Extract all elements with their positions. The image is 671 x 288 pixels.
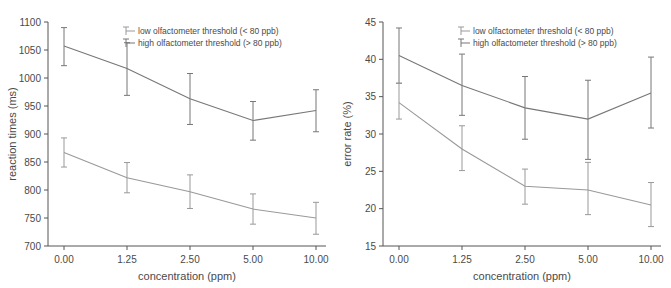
y-tick-label: 30	[365, 129, 377, 140]
y-tick-label: 950	[24, 101, 41, 112]
y-tick-label: 25	[365, 166, 377, 177]
y-tick-label: 800	[24, 185, 41, 196]
panel-error-rate: 152025303540450.001.252.505.0010.00conce…	[335, 0, 670, 288]
legend-label: high olfactometer threshold (> 80 ppb)	[473, 38, 617, 48]
y-axis-title: error rate (%)	[341, 101, 353, 166]
legend-item-high[interactable]: high olfactometer threshold (> 80 ppb)	[458, 38, 617, 48]
y-tick-label: 1100	[19, 17, 41, 28]
y-tick-label: 40	[365, 54, 377, 65]
x-tick-label: 1.25	[117, 254, 137, 265]
x-tick-label: 0.00	[54, 254, 74, 265]
legend-item-low[interactable]: low olfactometer threshold (< 80 ppb)	[458, 26, 614, 36]
x-axis-title: concentration (ppm)	[473, 270, 571, 282]
x-tick-label: 10.00	[303, 254, 328, 265]
x-axis-title: concentration (ppm)	[138, 270, 236, 282]
chart-right: 152025303540450.001.252.505.0010.00conce…	[335, 0, 670, 288]
y-tick-label: 15	[365, 241, 377, 252]
y-tick-label: 750	[24, 213, 41, 224]
y-axis-title: reaction times (ms)	[6, 87, 18, 181]
x-tick-label: 2.50	[180, 254, 200, 265]
series-low	[61, 138, 319, 234]
y-tick-label: 700	[24, 241, 41, 252]
panel-reaction-times: 7007508008509009501000105011000.001.252.…	[0, 0, 335, 288]
x-tick-label: 10.00	[638, 254, 663, 265]
legend-label: low olfactometer threshold (< 80 ppb)	[138, 26, 279, 36]
x-tick-label: 5.00	[243, 254, 263, 265]
legend: low olfactometer threshold (< 80 ppb)hig…	[123, 26, 282, 48]
y-tick-label: 900	[24, 129, 41, 140]
x-tick-label: 1.25	[452, 254, 472, 265]
figure-container: 7007508008509009501000105011000.001.252.…	[0, 0, 671, 288]
legend: low olfactometer threshold (< 80 ppb)hig…	[458, 26, 617, 48]
y-tick-label: 20	[365, 203, 377, 214]
legend-item-high[interactable]: high olfactometer threshold (> 80 ppb)	[123, 38, 282, 48]
legend-label: high olfactometer threshold (> 80 ppb)	[138, 38, 282, 48]
y-tick-label: 850	[24, 157, 41, 168]
y-tick-label: 45	[365, 17, 377, 28]
x-tick-label: 0.00	[389, 254, 409, 265]
y-tick-label: 1050	[19, 45, 42, 56]
y-tick-label: 35	[365, 91, 377, 102]
legend-label: low olfactometer threshold (< 80 ppb)	[473, 26, 614, 36]
legend-item-low[interactable]: low olfactometer threshold (< 80 ppb)	[123, 26, 279, 36]
chart-left: 7007508008509009501000105011000.001.252.…	[0, 0, 335, 288]
x-tick-label: 5.00	[578, 254, 598, 265]
x-tick-label: 2.50	[515, 254, 535, 265]
y-tick-label: 1000	[19, 73, 42, 84]
